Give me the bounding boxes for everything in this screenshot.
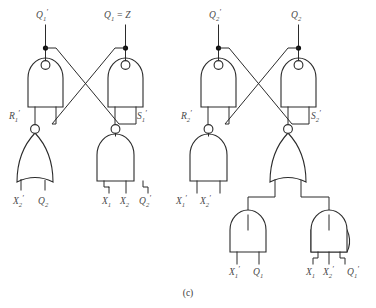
label-input-x2-not-c: X2′ [199, 194, 211, 207]
invert-bubble [31, 125, 40, 134]
label-input-x1-not-c: X1′ [175, 194, 187, 207]
nand-gate-r2 [190, 125, 227, 193]
nand-gate-q1-not [28, 48, 63, 107]
label-layer: Q1′ Q1 = Z Q2′ Q2 R1′ S1′ R2′ S2′ X2′ Q2 [8, 8, 359, 278]
label-input-x1-e: X1 [305, 267, 315, 278]
wire-nor-s2-in-right [301, 181, 329, 216]
invert-bubble [214, 61, 223, 70]
invert-bubble [284, 125, 293, 134]
nor-gate-s2 [248, 125, 329, 215]
label-r2-not: R2′ [180, 109, 192, 122]
label-q2-not: Q2′ [209, 8, 221, 21]
nand-gate-s1 [97, 125, 148, 193]
invert-bubble [111, 125, 120, 134]
invert-bubble [41, 61, 50, 70]
label-s1-not: S1′ [137, 109, 147, 122]
label-q2: Q2 [291, 10, 302, 21]
label-q1-equals-z: Q1 = Z [104, 10, 131, 21]
invert-bubble [294, 61, 303, 70]
label-input-q2-not-b: Q2′ [139, 194, 151, 207]
and-gate-left [230, 210, 266, 264]
nand-gate-q2 [281, 48, 316, 107]
latch-2 [190, 25, 350, 264]
label-input-x2-not-a: X2′ [12, 194, 24, 207]
circuit-canvas: Q1′ Q1 = Z Q2′ Q2 R1′ S1′ R2′ S2′ X2′ Q2 [0, 0, 376, 308]
label-r1-not: R1′ [8, 109, 20, 122]
wire-nor-s2-in-left [248, 180, 275, 215]
label-input-x1-not-d: X1′ [228, 265, 240, 278]
label-input-x1-b: X1 [101, 196, 111, 207]
nand-gate-q1 [108, 48, 143, 107]
label-input-x2-not-e: X2′ [322, 265, 334, 278]
label-s2-not: S2′ [311, 109, 321, 122]
label-input-x2-b: X2 [119, 196, 130, 207]
label-input-q2-a: Q2 [38, 196, 49, 207]
nor-gate-r1 [17, 125, 53, 190]
logic-circuit-figure: Q1′ Q1 = Z Q2′ Q2 R1′ S1′ R2′ S2′ X2′ Q2 [0, 0, 376, 308]
figure-caption: (c) [183, 288, 194, 299]
invert-bubble [121, 61, 130, 70]
label-input-q1-d: Q1 [253, 267, 263, 278]
label-input-q1-not-e: Q1′ [347, 265, 359, 278]
invert-bubble [204, 125, 213, 134]
latch-1 [17, 25, 148, 193]
and-gate-right [311, 210, 350, 264]
label-q1-not: Q1′ [36, 8, 48, 21]
nand-gate-q2-not [201, 48, 236, 107]
